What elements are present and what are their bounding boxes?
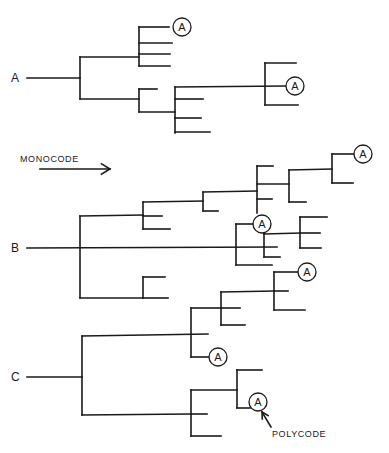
branch-line — [289, 169, 332, 170]
circled-node: A — [173, 18, 191, 36]
tree-a-branches — [27, 27, 298, 133]
tree-c-label: C — [11, 370, 20, 384]
tree-a: A AA — [11, 18, 304, 133]
branch-line — [27, 247, 277, 248]
branch-line — [203, 191, 257, 192]
tree-b: B AA — [11, 145, 372, 298]
code-tree-diagram: MONOCODE A AA B AA C AAA POLYCODE — [0, 0, 389, 453]
tree-b-circled-nodes: AA — [253, 145, 372, 233]
tree-c-branches — [27, 272, 305, 436]
branch-line — [221, 291, 274, 292]
branch-line — [143, 201, 203, 202]
node-label: A — [291, 80, 299, 92]
node-label: A — [258, 218, 266, 230]
tree-a-circled-nodes: AA — [173, 18, 304, 95]
tree-c-circled-nodes: AAA — [209, 263, 316, 411]
circled-node: A — [354, 145, 372, 163]
branch-line — [82, 334, 208, 336]
diagram-canvas: MONOCODE A AA B AA C AAA POLYCODE — [0, 0, 389, 453]
branch-line — [82, 414, 191, 415]
branch-line — [264, 233, 300, 234]
monocode-annotation: MONOCODE — [20, 154, 110, 174]
branch-line — [80, 215, 143, 216]
circled-node: A — [253, 215, 271, 233]
circled-node: A — [298, 263, 316, 281]
node-label: A — [254, 396, 262, 408]
tree-a-label: A — [11, 71, 19, 85]
polycode-annotation: POLYCODE — [262, 412, 326, 439]
circled-node: A — [209, 348, 227, 366]
circled-node: A — [286, 77, 304, 95]
monocode-arrow-icon — [40, 164, 110, 174]
node-label: A — [178, 21, 186, 33]
monocode-label: MONOCODE — [20, 154, 79, 164]
node-label: A — [303, 266, 311, 278]
circled-node: A — [249, 393, 267, 411]
node-label: A — [359, 148, 367, 160]
branch-line — [175, 86, 286, 87]
polycode-arrow-icon — [262, 412, 271, 427]
tree-c: C AAA — [11, 263, 316, 436]
tree-b-label: B — [11, 241, 19, 255]
polycode-label: POLYCODE — [272, 429, 326, 439]
node-label: A — [214, 351, 222, 363]
